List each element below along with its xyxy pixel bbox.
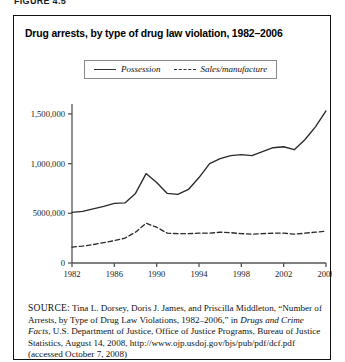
figure-frame: Drug arrests, by type of drug law violat…: [13, 15, 331, 360]
series-line-sales-manufacture: [72, 223, 326, 247]
chart-plot-area: Possession Sales/manufacture 05000,0001,…: [14, 16, 332, 306]
y-tick-labels: 05000,0001,000,0001,500,000: [31, 109, 65, 268]
chart-axes: [68, 104, 326, 267]
y-tick-label: 0: [61, 258, 65, 268]
y-tick-label: 5000,000: [33, 208, 65, 218]
series-line-possession: [72, 111, 326, 212]
x-tick-labels: 1982198619901994199820022006: [63, 269, 332, 279]
x-tick-label: 1998: [233, 269, 250, 279]
x-tick-label: 1986: [106, 269, 124, 279]
x-tick-label: 1990: [148, 269, 165, 279]
figure-label: FIGURE 4.5: [14, 0, 66, 8]
source-line2: , U.S. Department of Justice, Office of …: [28, 326, 320, 359]
x-tick-label: 2002: [275, 269, 292, 279]
y-tick-label: 1,000,000: [31, 159, 65, 169]
x-tick-label: 1982: [63, 269, 80, 279]
y-tick-label: 1,500,000: [31, 109, 65, 119]
x-tick-label: 1994: [190, 269, 208, 279]
x-tick-label: 2006: [317, 269, 332, 279]
source-note: SOURCE: Tina L. Dorsey, Doris J. James, …: [28, 302, 328, 361]
source-prefix: SOURCE:: [28, 302, 70, 313]
line-chart: 05000,0001,000,0001,500,000 198219861990…: [14, 16, 332, 306]
chart-series: [72, 111, 326, 247]
